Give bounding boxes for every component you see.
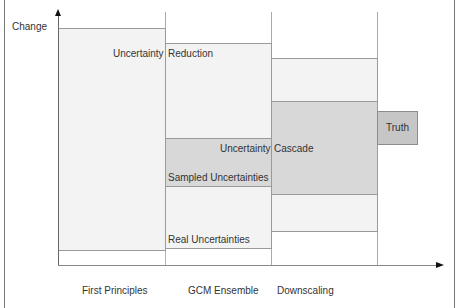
uncertainty-cascade-left-label: Uncertainty bbox=[220, 143, 271, 155]
truth-label: Truth bbox=[386, 122, 409, 134]
uncertainty-reduction-left-label: Uncertainty bbox=[113, 48, 164, 60]
frame-left-border bbox=[4, 0, 5, 308]
x-axis-line bbox=[58, 265, 436, 266]
real-uncertainties-label: Real Uncertainties bbox=[168, 234, 250, 246]
x-category-first-principles: First Principles bbox=[82, 285, 148, 297]
frame-right-border bbox=[454, 0, 455, 308]
x-category-downscaling: Downscaling bbox=[277, 285, 334, 297]
first-principles-uncertainty-box bbox=[58, 28, 166, 251]
y-axis-line bbox=[58, 14, 59, 265]
sampled-uncertainties-label: Sampled Uncertainties bbox=[168, 172, 269, 184]
x-axis-arrow-icon bbox=[436, 262, 444, 268]
y-axis-label: Change bbox=[12, 21, 47, 33]
y-axis-arrow-icon bbox=[55, 9, 61, 16]
x-category-gcm-ensemble: GCM Ensemble bbox=[188, 285, 259, 297]
uncertainty-reduction-right-label: Reduction bbox=[168, 48, 213, 60]
uncertainty-cascade-right-label: Cascade bbox=[274, 143, 313, 155]
